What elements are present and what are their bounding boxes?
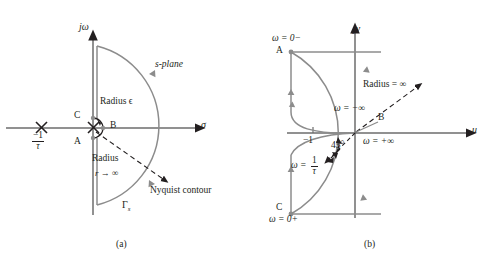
- omega-positive-infinity-label: ω = +∞: [363, 137, 394, 147]
- point-c-label-b: C: [276, 203, 282, 213]
- s-plane-label: s-plane: [155, 60, 183, 70]
- point-b-dot: [101, 126, 105, 130]
- polar-locus-lower: [291, 133, 355, 155]
- radius-r-label-line2: r → ∞: [95, 169, 118, 178]
- gamma-s-label: Γs: [122, 200, 131, 213]
- jv-axis-label: jv: [353, 24, 360, 34]
- panel-a-caption: (a): [116, 240, 127, 250]
- point-c-dot: [91, 116, 95, 120]
- omega-tau-denominator: τ: [311, 167, 318, 177]
- omega-zero-plus-label: ω = 0+: [269, 215, 298, 225]
- radius-infinity-dashed-line: [356, 87, 417, 132]
- radius-epsilon-label: Radius ϵ: [100, 97, 133, 107]
- u-axis-tick-minus-one-label: −1: [303, 136, 313, 146]
- point-a-dot-b: [289, 50, 294, 55]
- point-a-label: A: [74, 137, 81, 147]
- omega-one-over-tau-label: ω = 1 τ: [291, 156, 318, 176]
- point-b-label: B: [110, 121, 116, 131]
- point-b-leader: [356, 122, 378, 132]
- sigma-axis-label: σ: [201, 120, 206, 130]
- omega-zero-minus-label: ω = 0−: [272, 34, 301, 44]
- omega-negative-infinity-label: ω = −∞: [334, 104, 365, 114]
- panel-b-caption: (b): [364, 240, 375, 250]
- point-a-dot: [91, 136, 95, 140]
- radius-infinity-label: Radius = ∞: [363, 80, 406, 90]
- forty-five-degree-label: 45°: [331, 141, 344, 151]
- radius-r-label-line1: Radius: [92, 154, 118, 164]
- gamma-subscript: s: [128, 205, 131, 213]
- figure-root: jω σ s-plane Radius ϵ C B A −1 τ Radius …: [0, 0, 490, 265]
- point-a-label-b: A: [276, 46, 283, 56]
- nyquist-contour-label: Nyquist contour: [150, 186, 211, 196]
- u-axis-label: u: [472, 125, 477, 135]
- point-c-label: C: [74, 111, 80, 121]
- pole-value-denominator: τ: [32, 142, 44, 152]
- omega-equals-prefix: ω =: [291, 160, 307, 170]
- pole-value-label: −1 τ: [32, 131, 44, 151]
- jomega-axis-label: jω: [79, 22, 89, 32]
- point-b-label-b: B: [378, 113, 384, 123]
